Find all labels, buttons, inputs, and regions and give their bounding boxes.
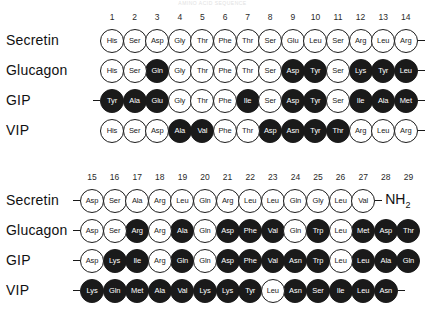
residue-circle: Ala	[168, 119, 192, 143]
sequence-row-gip: GIPAspLysIleArgGlnGlnAspPheValAsnTrpLeuL…	[0, 246, 425, 276]
residue-circle: Gln	[193, 189, 217, 213]
residue-circle: Arg	[148, 219, 172, 243]
residue-circle: Glu	[281, 29, 305, 53]
residue-label: Arg	[132, 227, 143, 235]
residue-label: Ala	[177, 227, 188, 235]
residue-circle: Met	[351, 219, 375, 243]
residue-circle: Val	[261, 219, 285, 243]
residue-circle: Gly	[168, 89, 192, 113]
residue-label: Trp	[313, 257, 324, 265]
residue-circle: Ala	[125, 189, 149, 213]
residue-label: Gln	[403, 257, 414, 265]
residue-circle: Thr	[236, 59, 260, 83]
residue-circle: Ile	[329, 279, 353, 303]
residue-circle: Gly	[168, 59, 192, 83]
sequence-row-glucagon: GlucagonAspSerArgArgAlaGlnAspPheValGlnTr…	[0, 216, 425, 246]
residue-label: Arg	[154, 197, 165, 205]
residue-label: Asp	[86, 257, 99, 265]
sequence-row-glucagon: GlucagonHisSerGlnGlyThrPheThrSerAspTyrSe…	[0, 56, 425, 86]
residue-circle: Ala	[170, 219, 194, 243]
residue-chain: AspSerArgArgAlaGlnAspPheValGlnTrpLeuMetA…	[80, 218, 425, 244]
residue-circle: Tyr	[100, 89, 124, 113]
residue-label: Asp	[86, 227, 99, 235]
residue-circle: Tyr	[303, 59, 327, 83]
residue-circle: Asp	[216, 219, 240, 243]
residue-label: Val	[358, 197, 368, 205]
residue-circle: Gly	[306, 189, 330, 213]
residue-label: Gln	[290, 227, 301, 235]
residue-label: Asp	[379, 227, 392, 235]
residue-label: Ser	[332, 67, 343, 75]
peptide-name-label: VIP	[6, 282, 29, 298]
residue-label: Met	[131, 287, 143, 295]
sequence-row-vip: VIPLysGlnMetAlaValLysLysTyrLeuAsnSerIleL…	[0, 276, 425, 306]
residue-circle: Ala	[371, 89, 395, 113]
residue-circle: Gln	[193, 249, 217, 273]
residue-circle: Thr	[326, 119, 350, 143]
peptide-name-label: VIP	[6, 122, 29, 138]
chain-continuation-dash	[418, 130, 425, 131]
residue-label: Leu	[267, 287, 279, 295]
residue-number: 21	[217, 172, 239, 182]
residue-label: Lys	[199, 287, 210, 295]
residue-number: 15	[81, 172, 103, 182]
panel-residues-15-29: 151617181920212223242526272829 SecretinA…	[0, 172, 425, 306]
residue-circle: Phe	[238, 219, 262, 243]
sequence-alignment-figure: AMINO ACID SEQUENCE 1234567891011121314 …	[0, 0, 425, 320]
residue-label: Gly	[313, 197, 324, 205]
residue-label: Gln	[199, 197, 210, 205]
residue-label: Ile	[337, 287, 345, 295]
residue-circle: Asp	[80, 189, 104, 213]
peptide-name-label: GIP	[6, 92, 31, 108]
residue-number: 5	[191, 12, 213, 22]
residue-circle: Trp	[306, 249, 330, 273]
residue-label: Asp	[286, 67, 299, 75]
residue-label: Phe	[218, 97, 231, 105]
residue-label: Phe	[244, 257, 257, 265]
residue-number: 17	[126, 172, 148, 182]
residue-label: Leu	[267, 197, 279, 205]
residue-circle: Phe	[213, 29, 237, 53]
residue-number: 25	[307, 172, 329, 182]
residue-circle: Ser	[123, 119, 147, 143]
residue-label: Arg	[222, 197, 233, 205]
residue-number: 13	[372, 12, 394, 22]
residue-label: Val	[268, 227, 278, 235]
residue-circle: Asp	[374, 219, 398, 243]
residue-circle: Leu	[303, 29, 327, 53]
residue-label: Ser	[109, 227, 120, 235]
chain-continuation-dash	[93, 100, 100, 101]
residue-number: 18	[149, 172, 171, 182]
residue-circle: Phe	[213, 119, 237, 143]
residue-circle: Gln	[193, 219, 217, 243]
residue-label: Ala	[155, 287, 166, 295]
residue-circle: Gln	[283, 189, 307, 213]
residue-label: Lys	[355, 67, 366, 75]
residue-label: Gly	[174, 67, 185, 75]
residue-circle: Lys	[349, 59, 373, 83]
residue-circle: Tyr	[238, 279, 262, 303]
residue-label: Gln	[199, 257, 210, 265]
residue-label: Ser	[265, 37, 276, 45]
residue-circle: Thr	[190, 89, 214, 113]
residue-circle: Met	[125, 279, 149, 303]
residue-label: Ile	[357, 97, 365, 105]
residue-circle: Ser	[258, 89, 282, 113]
residue-circle: Leu	[394, 59, 418, 83]
chain-continuation-dash	[418, 100, 425, 101]
residue-number: 28	[375, 172, 397, 182]
residue-circle: Gly	[168, 29, 192, 53]
residue-label: Phe	[244, 227, 257, 235]
residue-number: 26	[330, 172, 352, 182]
residue-label: Leu	[334, 257, 346, 265]
residue-label: Gln	[152, 67, 163, 75]
residue-circle: Thr	[190, 59, 214, 83]
residue-circle: Arg	[394, 119, 418, 143]
residue-label: Ile	[133, 257, 141, 265]
residue-circle: Gln	[170, 249, 194, 273]
residue-circle: Trp	[306, 219, 330, 243]
residue-label: Ala	[129, 97, 140, 105]
residue-label: Tyr	[310, 127, 320, 135]
residue-circle: Asp	[145, 119, 169, 143]
residue-circle: Tyr	[303, 89, 327, 113]
